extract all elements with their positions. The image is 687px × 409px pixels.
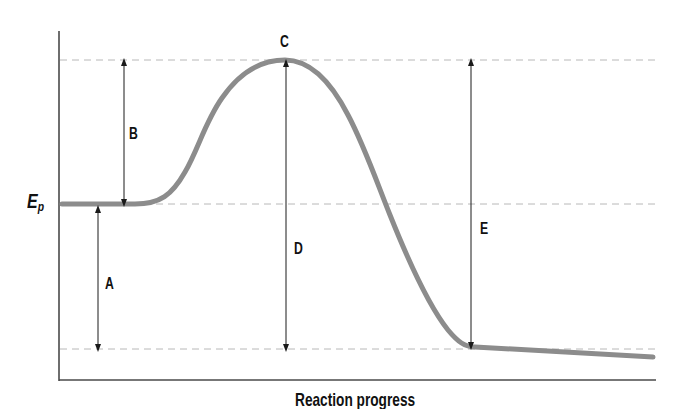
y-axis-label-subscript: p (38, 199, 44, 214)
potential-energy-diagram (0, 0, 687, 409)
label-C: C (280, 33, 289, 50)
label-A: A (105, 275, 114, 292)
y-axis-label-main: E (27, 190, 38, 212)
label-D: D (294, 240, 303, 257)
label-E: E (480, 220, 488, 237)
x-axis-label: Reaction progress (295, 390, 415, 409)
label-B: B (129, 125, 138, 142)
energy-curve (62, 60, 653, 357)
y-axis-label: Ep (27, 191, 44, 213)
